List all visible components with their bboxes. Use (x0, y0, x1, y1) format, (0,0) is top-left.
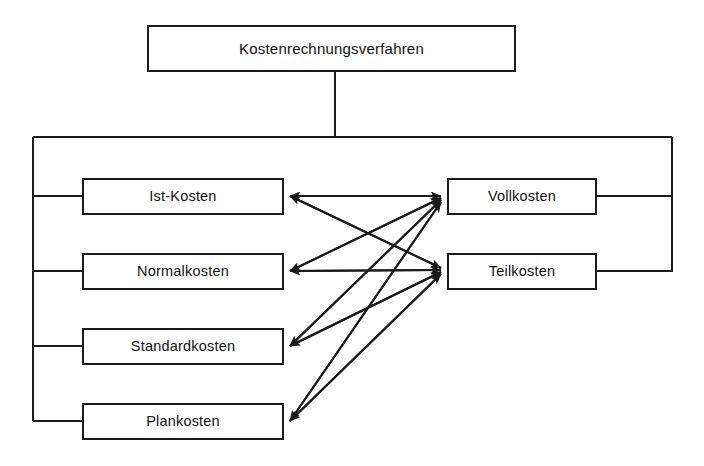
node-label-standardkosten: Standardkosten (131, 339, 235, 354)
node-label-teilkosten: Teilkosten (489, 264, 555, 279)
node-label-plankosten: Plankosten (146, 414, 220, 429)
node-label-ist-kosten: Ist-Kosten (149, 189, 216, 204)
node-plankosten[interactable]: Plankosten (82, 403, 284, 440)
diagram-canvas: Kostenrechnungsverfahren Ist-Kosten Norm… (0, 0, 704, 466)
cross-relation-arrows (290, 196, 441, 421)
node-vollkosten[interactable]: Vollkosten (447, 178, 597, 215)
left-rail-stubs (33, 196, 82, 421)
node-normalkosten[interactable]: Normalkosten (82, 253, 284, 290)
node-label-vollkosten: Vollkosten (488, 189, 556, 204)
node-label-kostenrechnungsverfahren: Kostenrechnungsverfahren (239, 41, 424, 56)
node-kostenrechnungsverfahren[interactable]: Kostenrechnungsverfahren (147, 25, 516, 72)
node-label-normalkosten: Normalkosten (137, 264, 229, 279)
node-standardkosten[interactable]: Standardkosten (82, 328, 284, 365)
right-rail-stubs (597, 196, 672, 271)
node-teilkosten[interactable]: Teilkosten (447, 253, 597, 290)
node-ist-kosten[interactable]: Ist-Kosten (82, 178, 284, 215)
